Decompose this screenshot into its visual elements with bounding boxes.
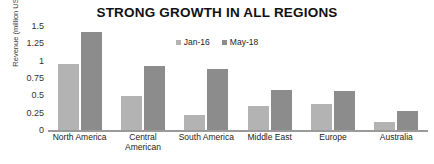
bar[interactable] — [397, 111, 418, 130]
y-tick-label: 1.5 — [31, 21, 44, 31]
bar[interactable] — [271, 90, 292, 130]
x-axis-label-line: American — [111, 142, 174, 152]
x-axis-label-line: Central — [111, 132, 174, 142]
bar[interactable] — [58, 64, 79, 130]
bar-group — [365, 26, 428, 130]
y-tick-label: 1 — [39, 56, 44, 66]
bar[interactable] — [184, 115, 205, 130]
x-axis-label: South America — [175, 132, 238, 152]
bar[interactable] — [374, 122, 395, 130]
bar-group — [238, 26, 301, 130]
bar-group — [175, 26, 238, 130]
chart-title: STRONG GROWTH IN ALL REGIONS — [0, 5, 434, 20]
x-axis-label-line: Europe — [301, 132, 364, 142]
bar[interactable] — [144, 66, 165, 130]
bar-group — [111, 26, 174, 130]
y-tick-label: 0.75 — [26, 73, 44, 83]
bar-chart: STRONG GROWTH IN ALL REGIONS Revenue (mi… — [0, 0, 434, 164]
bar[interactable] — [334, 91, 355, 130]
bar-group — [48, 26, 111, 130]
x-axis-label-line: South America — [175, 132, 238, 142]
x-axis-label-line: North America — [48, 132, 111, 142]
x-axis-label-line: Australia — [365, 132, 428, 142]
x-axis-label: North America — [48, 132, 111, 152]
bar[interactable] — [248, 106, 269, 130]
x-axis-label: CentralAmerican — [111, 132, 174, 152]
bar[interactable] — [311, 104, 332, 130]
bar[interactable] — [207, 69, 228, 130]
x-axis-label: Australia — [365, 132, 428, 152]
bar[interactable] — [121, 96, 142, 130]
y-tick-label: 0 — [39, 125, 44, 135]
y-tick-label: 0.25 — [26, 108, 44, 118]
x-axis-label: Middle East — [238, 132, 301, 152]
bar-group — [301, 26, 364, 130]
y-tick-label: 0.5 — [31, 90, 44, 100]
bar[interactable] — [81, 32, 102, 130]
bar-groups — [48, 26, 428, 130]
y-tick-label: 1.25 — [26, 38, 44, 48]
y-axis-ticks: 1.51.2510.750.50.250 — [14, 26, 44, 130]
x-axis-label: Europe — [301, 132, 364, 152]
x-axis-labels: North AmericaCentralAmericanSouth Americ… — [48, 132, 428, 152]
x-axis-label-line: Middle East — [238, 132, 301, 142]
